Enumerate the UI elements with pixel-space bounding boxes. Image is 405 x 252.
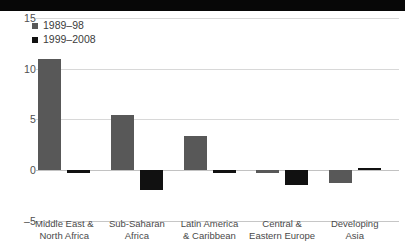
bar xyxy=(38,59,61,170)
chart-page: 151050–5 Middle East &North AfricaSub-Sa… xyxy=(0,0,405,252)
category-label-line: & Caribbean xyxy=(173,230,246,242)
category-label-line: North Africa xyxy=(28,230,101,242)
category-label-line: Developing xyxy=(318,218,391,230)
bar xyxy=(184,136,207,170)
category-label: DevelopingAsia xyxy=(318,218,391,241)
chart-legend: 1989–98 1999–2008 xyxy=(32,19,96,47)
category-label: Middle East &North Africa xyxy=(28,218,101,241)
category-label: Central &Eastern Europe xyxy=(246,218,319,241)
category-label-line: Asia xyxy=(318,230,391,242)
category-label-line: Sub-Saharan xyxy=(101,218,174,230)
bar xyxy=(329,170,352,183)
legend-swatch-icon xyxy=(32,37,38,43)
bar xyxy=(285,170,308,185)
category-label: Latin America& Caribbean xyxy=(173,218,246,241)
bar xyxy=(213,170,236,173)
legend-item-series-2: 1999–2008 xyxy=(32,33,96,46)
bar xyxy=(358,168,381,171)
legend-label: 1999–2008 xyxy=(43,34,96,45)
gridline-5 xyxy=(36,119,399,120)
category-label-line: Latin America xyxy=(173,218,246,230)
y-tick-label: 0 xyxy=(4,165,36,176)
legend-label: 1989–98 xyxy=(43,20,84,31)
category-label-line: Middle East & xyxy=(28,218,101,230)
category-label: Sub-SaharanAfrica xyxy=(101,218,174,241)
gridline-10 xyxy=(36,69,399,70)
y-tick-label: 5 xyxy=(4,114,36,125)
bar xyxy=(67,170,90,173)
bar xyxy=(140,170,163,190)
legend-swatch-icon xyxy=(32,23,38,29)
category-label-line: Eastern Europe xyxy=(246,230,319,242)
legend-item-series-1: 1989–98 xyxy=(32,19,96,32)
bar xyxy=(256,170,279,173)
category-label-line: Central & xyxy=(246,218,319,230)
category-label-line: Africa xyxy=(101,230,174,242)
y-tick-label: 10 xyxy=(4,64,36,75)
bar xyxy=(111,115,134,170)
